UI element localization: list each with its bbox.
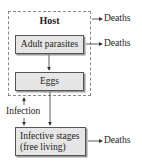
edges-layer bbox=[0, 0, 142, 165]
